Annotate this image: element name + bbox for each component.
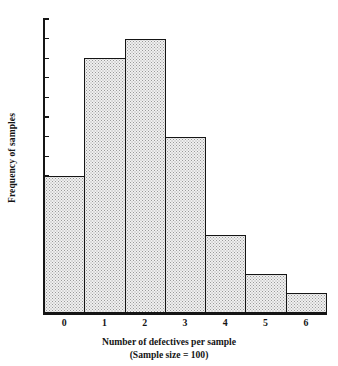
x-tick-label-0: 0 xyxy=(44,318,84,328)
bar-4 xyxy=(205,235,246,313)
bar-0 xyxy=(44,176,85,313)
x-tick-label-3: 3 xyxy=(165,318,205,328)
x-tick-label-4: 4 xyxy=(205,318,245,328)
bar-5 xyxy=(245,274,286,313)
y-tick-13 xyxy=(44,58,49,59)
bar-2 xyxy=(125,39,166,313)
x-axis-title: Number of defectives per sample xyxy=(0,336,338,349)
x-axis-tick-labels: 0123456 xyxy=(44,318,326,332)
x-axis-caption: Number of defectives per sample (Sample … xyxy=(0,336,338,361)
x-tick-label-5: 5 xyxy=(246,318,286,328)
y-tick-8 xyxy=(44,156,49,157)
histogram-figure: Frequency of samples 1514131211109876543… xyxy=(0,0,338,366)
y-axis-title: Frequency of samples xyxy=(7,93,17,223)
y-tick-11 xyxy=(44,97,49,98)
x-tick-label-2: 2 xyxy=(125,318,165,328)
y-tick-15 xyxy=(44,18,49,19)
x-axis-line xyxy=(43,313,327,315)
bar-1 xyxy=(84,58,125,313)
y-tick-10 xyxy=(44,116,49,117)
x-tick-label-6: 6 xyxy=(286,318,326,328)
bar-6 xyxy=(286,293,327,313)
bar-3 xyxy=(165,137,206,313)
y-tick-12 xyxy=(44,77,49,78)
y-tick-9 xyxy=(44,136,49,137)
x-tick-label-1: 1 xyxy=(84,318,124,328)
y-tick-14 xyxy=(44,38,49,39)
x-axis-subtitle: (Sample size = 100) xyxy=(0,349,338,362)
plot-area xyxy=(44,19,326,313)
